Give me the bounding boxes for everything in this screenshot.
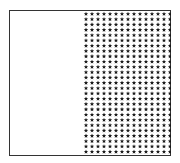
- star-icon: [96, 44, 100, 48]
- star-icon: [102, 144, 106, 148]
- star-icon: [96, 38, 100, 42]
- star-icon: [102, 17, 106, 21]
- star-icon: [132, 12, 136, 16]
- star-icon: [138, 70, 142, 74]
- star-icon: [168, 102, 171, 106]
- star-icon: [102, 70, 106, 74]
- star-icon: [168, 59, 171, 63]
- star-icon: [114, 134, 118, 138]
- star-icon: [168, 118, 171, 122]
- star-icon: [126, 28, 130, 32]
- star-icon: [156, 44, 160, 48]
- star-icon: [84, 128, 88, 132]
- star-icon: [96, 75, 100, 79]
- star-icon: [96, 128, 100, 132]
- star-icon: [138, 102, 142, 106]
- star-icon: [126, 112, 130, 116]
- star-icon: [102, 118, 106, 122]
- star-icon: [144, 97, 148, 101]
- star-icon: [138, 150, 142, 154]
- star-icon: [162, 17, 166, 21]
- star-icon: [162, 144, 166, 148]
- star-icon: [144, 59, 148, 63]
- star-icon: [90, 33, 94, 37]
- star-icon: [108, 134, 112, 138]
- star-icon: [102, 81, 106, 85]
- star-icon: [120, 44, 124, 48]
- star-icon: [102, 28, 106, 32]
- star-icon: [114, 22, 118, 26]
- star-icon: [114, 17, 118, 21]
- star-icon: [138, 112, 142, 116]
- star-icon: [138, 75, 142, 79]
- star-icon: [108, 59, 112, 63]
- star-icon: [114, 28, 118, 32]
- star-icon: [138, 65, 142, 69]
- star-icon: [114, 44, 118, 48]
- star-icon: [126, 44, 130, 48]
- star-icon: [162, 139, 166, 143]
- star-icon: [168, 22, 171, 26]
- star-icon: [162, 12, 166, 16]
- star-icon: [150, 38, 154, 42]
- star-icon: [150, 118, 154, 122]
- star-icon: [126, 22, 130, 26]
- star-icon: [162, 44, 166, 48]
- star-icon: [90, 118, 94, 122]
- star-icon: [168, 44, 171, 48]
- star-icon: [132, 144, 136, 148]
- star-icon: [132, 28, 136, 32]
- star-icon: [96, 123, 100, 127]
- star-icon: [84, 139, 88, 143]
- star-icon: [150, 17, 154, 21]
- star-icon: [108, 91, 112, 95]
- star-icon: [132, 81, 136, 85]
- star-icon: [120, 139, 124, 143]
- star-icon: [168, 65, 171, 69]
- star-icon: [126, 75, 130, 79]
- star-icon: [132, 134, 136, 138]
- star-icon: [126, 102, 130, 106]
- star-icon: [84, 97, 88, 101]
- star-icon: [156, 75, 160, 79]
- star-icon: [162, 59, 166, 63]
- star-icon: [102, 139, 106, 143]
- star-icon: [102, 54, 106, 58]
- star-icon: [144, 49, 148, 53]
- star-icon: [120, 54, 124, 58]
- star-icon: [90, 86, 94, 90]
- star-icon: [102, 128, 106, 132]
- star-icon: [102, 38, 106, 42]
- star-icon: [90, 65, 94, 69]
- star-icon: [156, 118, 160, 122]
- star-icon: [108, 123, 112, 127]
- star-icon: [162, 38, 166, 42]
- star-icon: [108, 12, 112, 16]
- star-icon: [90, 128, 94, 132]
- star-icon: [138, 123, 142, 127]
- star-icon: [138, 22, 142, 26]
- star-icon: [114, 150, 118, 154]
- star-icon: [162, 91, 166, 95]
- star-icon: [96, 112, 100, 116]
- star-icon: [150, 123, 154, 127]
- star-icon: [102, 86, 106, 90]
- star-icon: [144, 102, 148, 106]
- star-icon: [90, 22, 94, 26]
- star-icon: [96, 118, 100, 122]
- star-icon: [102, 107, 106, 111]
- star-icon: [162, 49, 166, 53]
- star-icon: [138, 107, 142, 111]
- star-icon: [108, 97, 112, 101]
- star-icon: [168, 49, 171, 53]
- star-icon: [144, 112, 148, 116]
- star-icon: [144, 107, 148, 111]
- star-icon: [138, 12, 142, 16]
- star-icon: [132, 22, 136, 26]
- star-icon: [102, 65, 106, 69]
- star-icon: [132, 102, 136, 106]
- star-icon: [120, 49, 124, 53]
- star-icon: [168, 134, 171, 138]
- star-icon: [156, 70, 160, 74]
- star-icon: [120, 28, 124, 32]
